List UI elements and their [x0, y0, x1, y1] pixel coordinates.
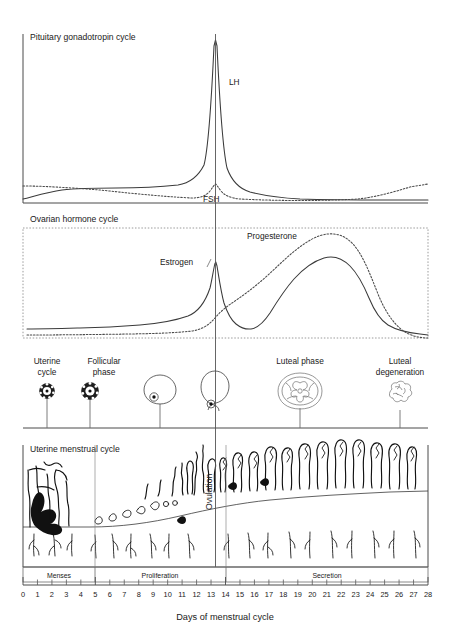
day-tick-group: 0123456789101112131415161718192021222324… — [21, 577, 432, 599]
day-tick-label: 10 — [164, 590, 172, 599]
day-tick-label: 7 — [122, 590, 126, 599]
endometrium-secretion-region — [220, 440, 420, 558]
follicle-stage-2-label-line1: Follicular — [87, 356, 120, 366]
day-tick-label: 14 — [221, 590, 229, 599]
ovulation-label: Ovulation — [204, 473, 214, 510]
fsh-label: FSH — [203, 194, 220, 204]
follicle-stage-1: Uterine cycle — [34, 356, 61, 428]
pituitary-panel: Pituitary gonadotropin cycle LH FSH — [23, 32, 428, 204]
day-tick-label: 6 — [108, 590, 112, 599]
day-tick-label: 8 — [137, 590, 141, 599]
phase-band-secretion-label: Secretion — [312, 572, 341, 579]
primary-follicle-icon — [81, 382, 98, 400]
ovarian-panel-frame — [23, 228, 428, 338]
day-tick-label: 11 — [178, 590, 186, 599]
follicle-stage-6-label-line1: Luteal — [389, 356, 412, 366]
progesterone-label: Progesterone — [247, 231, 297, 241]
day-tick-label: 27 — [409, 590, 417, 599]
follicle-stage-1-label-line2: cycle — [38, 367, 57, 377]
follicle-stage-2-label-line2: phase — [93, 367, 116, 377]
pituitary-panel-title: Pituitary gonadotropin cycle — [30, 32, 136, 42]
day-tick-label: 5 — [93, 590, 97, 599]
progesterone-curve — [27, 234, 428, 338]
endometrium-menses-region — [28, 462, 72, 556]
day-tick-label: 15 — [236, 590, 244, 599]
corpus-albicans-icon — [389, 381, 411, 402]
endometrium-basal-line — [23, 491, 428, 527]
day-tick-label: 9 — [151, 590, 155, 599]
day-tick-label: 4 — [79, 590, 83, 599]
uterine-panel-title: Uterine menstrual cycle — [30, 444, 120, 454]
day-tick-label: 13 — [207, 590, 215, 599]
fsh-curve — [23, 184, 428, 201]
follicle-stage-2: Follicular phase — [81, 356, 120, 428]
phase-band-proliferation-label: Proliferation — [142, 572, 179, 579]
follicle-stage-1-label-line1: Uterine — [34, 356, 61, 366]
day-tick-label: 0 — [21, 590, 25, 599]
follicle-stage-6-label-line2: degeneration — [376, 367, 425, 377]
endometrium-proliferation-region — [91, 445, 216, 558]
ovarian-panel: Ovarian hormone cycle Estrogen Progester… — [23, 214, 428, 338]
axis-caption: Days of menstrual cycle — [176, 612, 274, 622]
day-axis: 0123456789101112131415161718192021222324… — [21, 577, 432, 622]
day-tick-label: 12 — [192, 590, 200, 599]
uterine-panel-frame — [23, 445, 428, 567]
day-tick-label: 19 — [294, 590, 302, 599]
corpus-luteum-icon — [278, 373, 322, 409]
day-tick-label: 16 — [250, 590, 258, 599]
day-tick-label: 28 — [424, 590, 432, 599]
day-tick-label: 26 — [395, 590, 403, 599]
graafian-follicle-icon — [144, 375, 176, 404]
phase-band-menses-label: Menses — [47, 572, 72, 579]
day-tick-label: 2 — [50, 590, 54, 599]
day-tick-label: 21 — [323, 590, 331, 599]
follicle-stage-4 — [201, 371, 229, 411]
lh-label: LH — [229, 77, 240, 87]
day-tick-label: 17 — [265, 590, 273, 599]
lh-curve — [23, 40, 428, 200]
estrogen-leader — [207, 259, 211, 267]
day-tick-label: 25 — [380, 590, 388, 599]
primordial-follicle-icon — [39, 383, 54, 399]
menstrual-cycle-figure: Pituitary gonadotropin cycle LH FSH Ovar… — [0, 0, 451, 641]
day-tick-label: 20 — [308, 590, 316, 599]
ovulating-follicle-icon — [201, 371, 229, 411]
follicle-stage-5: Luteal phase — [276, 356, 324, 428]
day-tick-label: 3 — [64, 590, 68, 599]
follicle-stage-5-label-line1: Luteal phase — [276, 356, 324, 366]
estrogen-label: Estrogen — [160, 257, 194, 267]
day-tick-label: 22 — [337, 590, 345, 599]
day-tick-label: 18 — [279, 590, 287, 599]
day-tick-label: 24 — [366, 590, 374, 599]
day-tick-label: 1 — [35, 590, 39, 599]
ovarian-panel-title: Ovarian hormone cycle — [30, 214, 119, 224]
follicle-stage-3 — [144, 375, 176, 428]
follicle-stage-6: Luteal degeneration — [376, 356, 425, 428]
day-tick-label: 23 — [352, 590, 360, 599]
follicle-stage-panel: Uterine cycle Follicular phase — [23, 356, 428, 428]
uterine-panel: Uterine menstrual cycle — [23, 440, 428, 567]
